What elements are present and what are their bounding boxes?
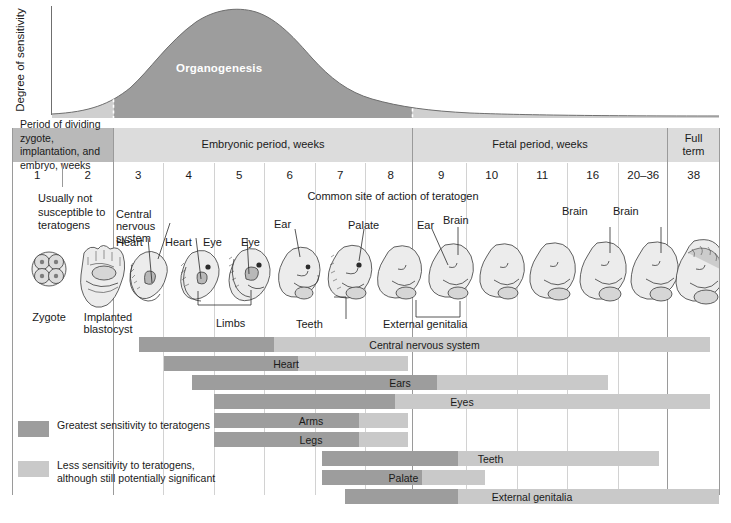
bar-row-ears: Ears — [0, 375, 731, 390]
period-band-embryonic: Embryonic period, weeks — [114, 128, 412, 162]
bar-label-heart: Heart — [164, 356, 408, 371]
period-band-full-term: Full term — [668, 128, 719, 162]
figure-embryo-week10 — [480, 244, 525, 299]
period-label-full-term: Full term — [668, 128, 719, 162]
organogenesis-label: Organogenesis — [176, 62, 262, 74]
figure-implanted-blastocyst — [81, 246, 125, 308]
bar-row-central-nervous-system: Central nervous system — [0, 337, 731, 352]
legend-text-greatest: Greatest sensitivity to teratogens — [57, 419, 217, 432]
week-cell-38: 38 — [669, 163, 720, 187]
period-label-embryonic: Embryonic period, weeks — [114, 128, 412, 162]
week-cell-16: 16 — [568, 163, 619, 187]
bar-label-eyes: Eyes — [214, 394, 710, 409]
figure-newborn-week38 — [676, 240, 719, 304]
callout-brain-week20-36: Brain — [613, 205, 639, 219]
period-label-dividing-zygote: Period of dividing zygote, implantation,… — [12, 128, 113, 162]
bar-label-ears: Ears — [192, 375, 608, 390]
bar-label-arms: Arms — [214, 413, 408, 428]
week-cell-2: 2 — [63, 163, 114, 187]
grid-line-w1 — [62, 163, 63, 187]
bar-label-external-genitalia: External genitalia — [345, 489, 719, 504]
period-band-dividing-zygote: Period of dividing zygote, implantation,… — [12, 128, 113, 162]
callout-brain-week9: Brain — [443, 214, 469, 228]
callout-palate: Palate — [348, 219, 379, 233]
teratogen-sensitivity-diagram: Degree of sensitivity Organogenesis — [0, 0, 731, 523]
bar-row-heart: Heart — [0, 356, 731, 371]
figure-embryo-week11 — [530, 243, 576, 300]
callout-limbs: Limbs — [216, 317, 245, 331]
bar-label-legs: Legs — [214, 432, 408, 447]
figure-embryo-week4 — [181, 250, 219, 301]
week-cell-4: 4 — [164, 163, 215, 187]
week-cell-8: 8 — [366, 163, 417, 187]
figure-embryo-week9 — [429, 244, 474, 299]
figure-embryo-week7 — [328, 245, 372, 299]
figure-embryo-week16 — [580, 242, 626, 301]
figure-embryo-week3 — [130, 251, 167, 301]
figure-embryo-week20-36 — [631, 242, 678, 301]
legend-text-less: Less sensitivity to teratogens, although… — [57, 459, 227, 485]
callout-eye-week5: Eye — [241, 236, 260, 250]
figure-embryo-week8 — [378, 246, 422, 299]
legend-swatch-greatest — [18, 421, 49, 437]
callout-teeth: Teeth — [296, 318, 323, 332]
week-cell-6: 6 — [265, 163, 316, 187]
week-cell-7: 7 — [315, 163, 366, 187]
bar-row-legs: Legs — [0, 432, 731, 447]
callout-brain-week16: Brain — [562, 205, 588, 219]
sensitivity-curve-svg — [0, 0, 731, 118]
caption-common-site: Common site of action of teratogen — [288, 190, 498, 204]
bar-label-palate: Palate — [322, 470, 485, 485]
stage-label-implanted-blastocyst: Implanted blastocyst — [62, 311, 154, 335]
week-cell-3: 3 — [113, 163, 164, 187]
week-cell-9: 9 — [416, 163, 467, 187]
figure-zygote — [32, 252, 66, 286]
callout-ear-week6: Ear — [274, 218, 291, 232]
week-cell-1: 1 — [12, 163, 63, 187]
callout-eye-week4: Eye — [203, 236, 222, 250]
period-band-fetal: Fetal period, weeks — [413, 128, 667, 162]
period-label-fetal: Fetal period, weeks — [413, 128, 667, 162]
callout-heart-week3: Heart — [116, 236, 143, 250]
bar-row-eyes: Eyes — [0, 394, 731, 409]
bar-row-external-genitalia: External genitalia — [0, 489, 731, 504]
callout-heart-week4: Heart — [165, 236, 192, 250]
callout-ear-week8: Ear — [417, 219, 434, 233]
week-cell-20-36: 20–36 — [618, 163, 669, 187]
bar-label-teeth: Teeth — [322, 451, 659, 466]
sensitivity-curve: Organogenesis — [0, 0, 731, 118]
bar-label-central-nervous-system: Central nervous system — [139, 337, 710, 352]
week-cell-10: 10 — [467, 163, 518, 187]
week-cell-5: 5 — [214, 163, 265, 187]
figure-embryo-week5 — [229, 249, 270, 301]
week-cell-11: 11 — [517, 163, 568, 187]
callout-external-genitalia: External genitalia — [383, 318, 467, 332]
legend-swatch-less — [18, 461, 49, 477]
